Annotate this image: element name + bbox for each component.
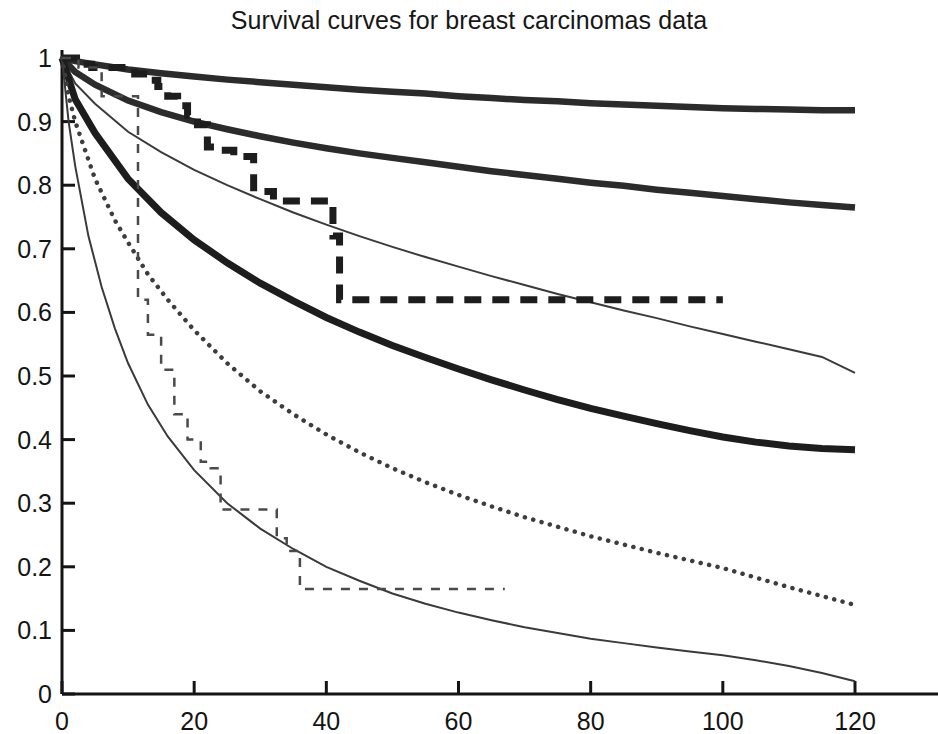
- survival-plot: 00.10.20.30.40.50.60.70.80.9102040608010…: [0, 0, 938, 734]
- x-tick-label: 20: [180, 707, 208, 734]
- series-smooth-survival-group-3-thin: [62, 58, 855, 373]
- chart-figure: Survival curves for breast carcinomas da…: [0, 0, 938, 734]
- y-tick-label: 1: [38, 44, 52, 72]
- y-tick-label: 0.3: [17, 489, 52, 517]
- y-tick-label: 0.8: [17, 171, 52, 199]
- axes: [62, 50, 938, 694]
- series-group: [62, 58, 855, 681]
- series-smooth-survival-group-2-thick: [62, 58, 855, 207]
- x-tick-label: 40: [312, 707, 340, 734]
- y-tick-label: 0.5: [17, 362, 52, 390]
- x-tick-label: 60: [445, 707, 473, 734]
- x-tick-label: 100: [702, 707, 744, 734]
- series-smooth-survival-group-5-dotted: [62, 58, 855, 605]
- y-tick-label: 0.4: [17, 426, 52, 454]
- y-tick-label: 0.7: [17, 235, 52, 263]
- y-tick-label: 0.2: [17, 553, 52, 581]
- y-tick-label: 0.6: [17, 298, 52, 326]
- series-smooth-survival-group-1-thick: [62, 58, 855, 110]
- tick-marks: 00.10.20.30.40.50.60.70.80.9102040608010…: [17, 44, 876, 734]
- y-tick-label: 0.1: [17, 616, 52, 644]
- x-tick-label: 0: [55, 707, 69, 734]
- y-tick-label: 0: [38, 680, 52, 708]
- x-tick-label: 120: [834, 707, 876, 734]
- x-tick-label: 80: [577, 707, 605, 734]
- y-tick-label: 0.9: [17, 108, 52, 136]
